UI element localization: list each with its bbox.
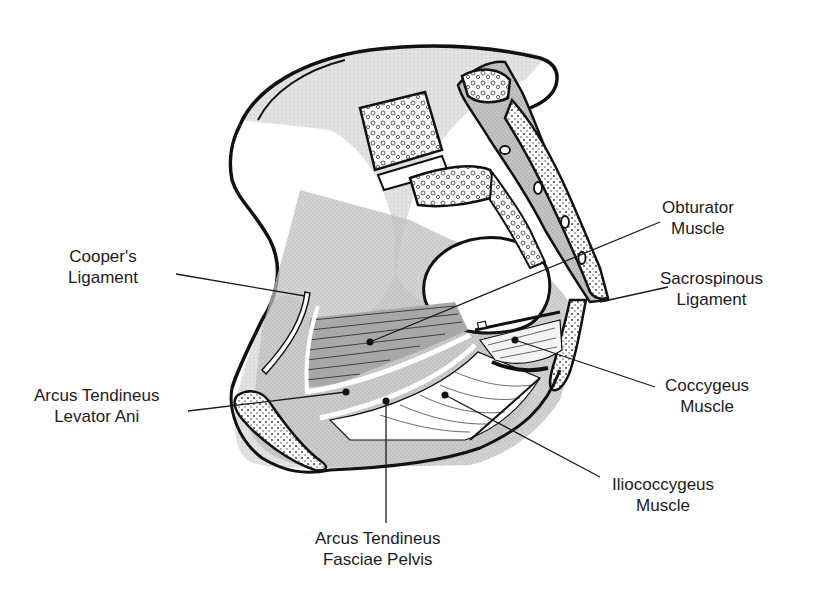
label-arcus-tendineus-fasciae-pelvis: Arcus Tendineus Fasciae Pelvis: [315, 528, 440, 570]
label-coopers-ligament: Cooper's Ligament: [68, 246, 138, 288]
label-arcus-tendineus-levator-ani: Arcus Tendineus Levator Ani: [34, 385, 159, 427]
leader-sacrospinous-ligament: [600, 287, 668, 302]
label-iliococcygeus-muscle: Iliococcygeus Muscle: [612, 474, 714, 516]
label-obturator-muscle: Obturator Muscle: [662, 197, 734, 239]
label-coccygeus-muscle: Coccygeus Muscle: [665, 375, 749, 417]
label-sacrospinous-ligament: Sacrospinous Ligament: [660, 268, 763, 310]
